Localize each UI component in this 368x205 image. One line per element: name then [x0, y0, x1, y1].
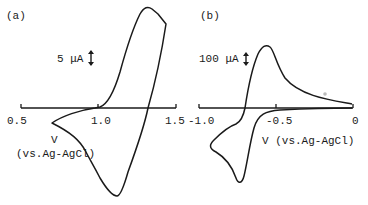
panel-b-tick-2: 0 [352, 115, 359, 127]
artifact-dot [323, 92, 327, 96]
panel-a-xlabel-v: V [51, 134, 58, 146]
panel-a-cv-curve [52, 7, 166, 196]
panel-b-cv-curve [211, 46, 353, 183]
panel-b-label: (b) [200, 10, 220, 22]
panel-a-scale-label: 5 μA [57, 53, 83, 65]
voltammogram-figure [0, 0, 368, 205]
panel-a-label: (a) [6, 10, 26, 22]
panel-b-tick-1: -0.5 [266, 115, 292, 127]
panel-b-scale-label: 100 μA [199, 53, 239, 65]
panel-b-scale-arrow-icon [243, 52, 249, 66]
panel-a-xlabel-ref: (vs.Ag-AgCl) [16, 148, 95, 160]
panel-b-xlabel: V (vs.Ag-AgCl) [262, 135, 354, 147]
panel-b-tick-0: -1.0 [188, 115, 214, 127]
panel-b-axis [199, 104, 353, 108]
panel-a-tick-0: 0.5 [7, 115, 27, 127]
panel-a-tick-1: 1.0 [91, 115, 111, 127]
panel-a-tick-2: 1.5 [165, 115, 185, 127]
panel-a-scale-arrow-icon [88, 50, 94, 66]
